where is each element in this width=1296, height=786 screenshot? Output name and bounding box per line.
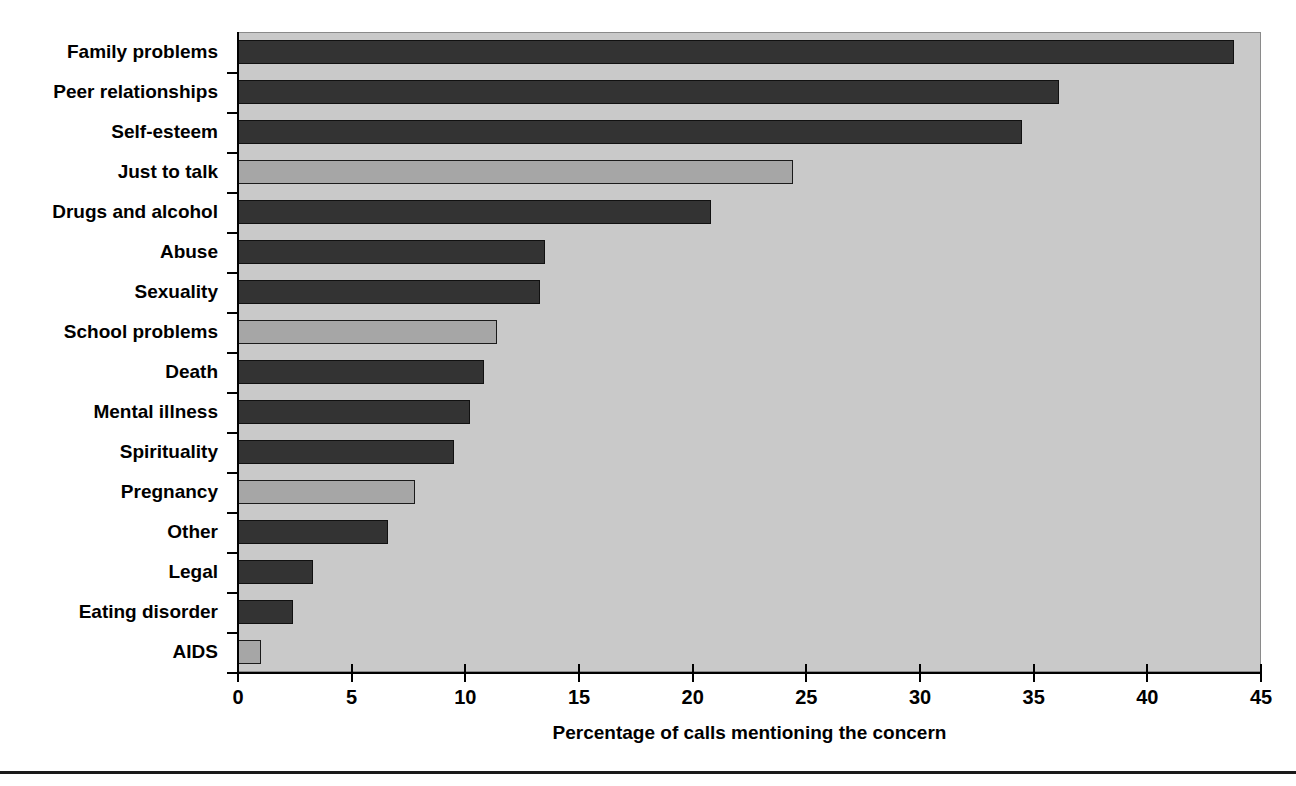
category-label: Just to talk bbox=[0, 162, 218, 182]
bar bbox=[238, 640, 261, 664]
x-axis-tick-label: 5 bbox=[322, 686, 382, 709]
bar bbox=[238, 160, 793, 184]
category-label: Family problems bbox=[0, 42, 218, 62]
bar bbox=[238, 320, 497, 344]
y-axis-tick bbox=[227, 72, 239, 74]
y-axis-tick bbox=[227, 272, 239, 274]
category-label: AIDS bbox=[0, 642, 218, 662]
y-axis-tick bbox=[227, 592, 239, 594]
bar bbox=[238, 440, 454, 464]
x-axis-tick-label: 15 bbox=[549, 686, 609, 709]
x-axis-tick bbox=[237, 664, 239, 682]
y-axis-tick bbox=[227, 432, 239, 434]
category-label: Other bbox=[0, 522, 218, 542]
x-axis-tick-label: 10 bbox=[435, 686, 495, 709]
category-label: Legal bbox=[0, 562, 218, 582]
bars-layer bbox=[238, 32, 1261, 672]
category-label: Drugs and alcohol bbox=[0, 202, 218, 222]
category-axis-labels: Family problemsPeer relationshipsSelf-es… bbox=[0, 32, 228, 672]
bar bbox=[238, 40, 1234, 64]
y-axis-tick bbox=[227, 312, 239, 314]
bar bbox=[238, 600, 293, 624]
x-axis-tick-label: 30 bbox=[890, 686, 950, 709]
x-axis-tick bbox=[578, 664, 580, 682]
category-label: Eating disorder bbox=[0, 602, 218, 622]
x-axis-tick-label: 40 bbox=[1117, 686, 1177, 709]
x-axis-tick-label: 35 bbox=[1004, 686, 1064, 709]
category-label: Mental illness bbox=[0, 402, 218, 422]
y-axis-tick bbox=[227, 632, 239, 634]
x-axis-tick bbox=[1260, 664, 1262, 682]
x-axis-tick bbox=[805, 664, 807, 682]
x-axis-tick-label: 0 bbox=[208, 686, 268, 709]
bar-chart-figure: Family problemsPeer relationshipsSelf-es… bbox=[0, 0, 1296, 786]
y-axis-tick bbox=[227, 512, 239, 514]
x-axis-tick bbox=[919, 664, 921, 682]
y-axis-tick bbox=[227, 152, 239, 154]
category-label: Self-esteem bbox=[0, 122, 218, 142]
x-axis-title: Percentage of calls mentioning the conce… bbox=[238, 722, 1261, 744]
y-axis-tick bbox=[227, 392, 239, 394]
x-axis-tick bbox=[351, 664, 353, 682]
bar bbox=[238, 400, 470, 424]
bar bbox=[238, 560, 313, 584]
y-axis-tick bbox=[227, 552, 239, 554]
x-axis-tick bbox=[692, 664, 694, 682]
x-axis-tick-label: 45 bbox=[1231, 686, 1291, 709]
bar bbox=[238, 240, 545, 264]
category-label: Spirituality bbox=[0, 442, 218, 462]
category-label: Sexuality bbox=[0, 282, 218, 302]
x-axis-tick bbox=[464, 664, 466, 682]
bar bbox=[238, 200, 711, 224]
y-axis-tick bbox=[227, 232, 239, 234]
x-axis-tick-label: 20 bbox=[663, 686, 723, 709]
bar bbox=[238, 520, 388, 544]
category-label: Pregnancy bbox=[0, 482, 218, 502]
bar bbox=[238, 360, 484, 384]
bar bbox=[238, 280, 540, 304]
category-label: Death bbox=[0, 362, 218, 382]
y-axis-tick bbox=[227, 192, 239, 194]
x-axis-tick bbox=[1146, 664, 1148, 682]
bar bbox=[238, 480, 415, 504]
x-axis-tick-label: 25 bbox=[776, 686, 836, 709]
bar bbox=[238, 80, 1059, 104]
y-axis-tick bbox=[227, 472, 239, 474]
x-axis-line bbox=[237, 672, 1262, 674]
y-axis-tick bbox=[227, 352, 239, 354]
bar bbox=[238, 120, 1022, 144]
bottom-divider-rule bbox=[0, 771, 1296, 774]
category-label: Peer relationships bbox=[0, 82, 218, 102]
y-axis-tick bbox=[227, 112, 239, 114]
category-label: Abuse bbox=[0, 242, 218, 262]
x-axis-tick bbox=[1033, 664, 1035, 682]
category-label: School problems bbox=[0, 322, 218, 342]
